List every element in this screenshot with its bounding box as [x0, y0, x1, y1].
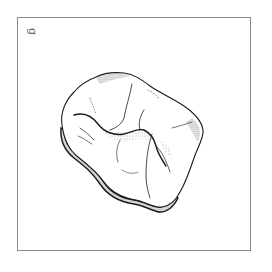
specimen-illustration: [0, 0, 272, 272]
specimen-crown: [62, 73, 203, 207]
